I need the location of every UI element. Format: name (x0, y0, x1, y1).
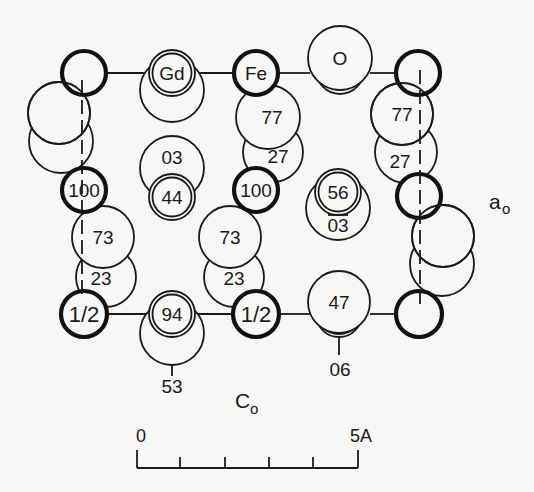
scale-bar: 0 5A (136, 426, 372, 468)
svg-text:0: 0 (136, 426, 146, 446)
svg-text:C: C (235, 389, 250, 412)
svg-text:56: 56 (327, 182, 348, 203)
svg-text:a: a (489, 190, 501, 213)
atom-o-mid-73: 73 (199, 206, 261, 268)
svg-text:O: O (333, 48, 348, 69)
svg-text:03: 03 (327, 215, 348, 236)
svg-text:06: 06 (329, 359, 350, 380)
atom-gd-right-56: 56 (315, 169, 361, 215)
atom-o-bottom-47: 47 (308, 271, 370, 333)
atom-gd-center-44: 44 (149, 174, 195, 220)
svg-text:o: o (250, 400, 258, 417)
svg-text:44: 44 (161, 187, 183, 208)
svg-text:73: 73 (219, 227, 240, 248)
svg-text:53: 53 (161, 376, 182, 397)
axis-label-a0: a o (489, 190, 510, 217)
atom-fe-right-mid (397, 174, 441, 218)
svg-text:o: o (502, 200, 510, 217)
atom-o-left-73: 73 (72, 206, 134, 268)
svg-text:77: 77 (261, 107, 282, 128)
atom-fe-bottom-right (396, 291, 442, 337)
atom-fe-bottom-mid-half: 1/2 (233, 291, 279, 337)
axis-label-c0: C o (235, 389, 258, 417)
svg-text:23: 23 (223, 268, 244, 289)
atom-o-top: O (308, 26, 372, 94)
svg-text:03: 03 (161, 147, 182, 168)
svg-text:27: 27 (389, 151, 410, 172)
crystal-structure-diagram: 23 73 100 1/2 Gd 03 44 53 94 (0, 0, 534, 492)
svg-text:47: 47 (328, 292, 349, 313)
svg-text:100: 100 (240, 180, 272, 201)
atom-fe-left-100: 100 (62, 168, 106, 212)
atom-fe-top-left (62, 51, 106, 95)
svg-text:Gd: Gd (159, 63, 184, 84)
svg-text:5A: 5A (350, 426, 372, 446)
svg-text:23: 23 (90, 268, 111, 289)
svg-text:100: 100 (68, 180, 100, 201)
svg-text:94: 94 (161, 304, 183, 325)
svg-text:73: 73 (92, 227, 113, 248)
svg-text:77: 77 (391, 104, 412, 125)
atom-fe-mid-100: 100 (234, 168, 278, 212)
atom-fe-top: Fe (234, 51, 278, 95)
atom-gd-top: Gd (140, 50, 204, 122)
svg-text:1/2: 1/2 (241, 302, 272, 327)
atom-fe-bottom-left-half: 1/2 (61, 291, 107, 337)
svg-text:1/2: 1/2 (69, 302, 100, 327)
atom-gd-bottom-94: 94 (149, 291, 195, 337)
svg-text:Fe: Fe (245, 63, 267, 84)
